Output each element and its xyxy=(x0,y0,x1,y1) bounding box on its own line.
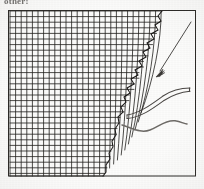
figure-container: other: xyxy=(0,0,204,189)
technical-figure xyxy=(0,0,204,189)
mesh-boundary-jagged xyxy=(103,11,162,176)
annotation-arrow xyxy=(156,22,191,77)
